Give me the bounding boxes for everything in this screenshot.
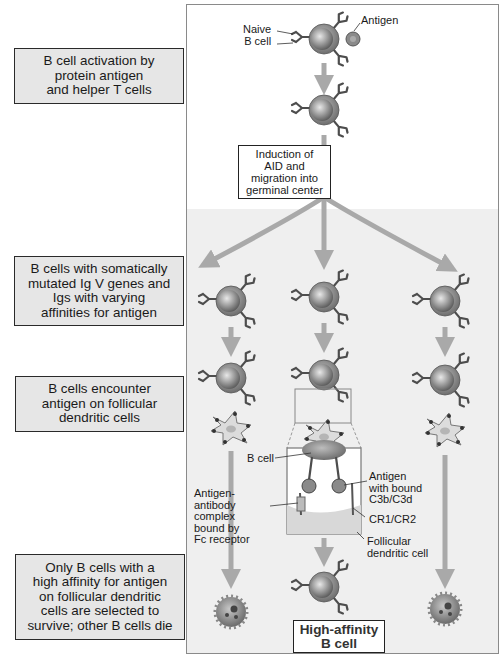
dying-b-cell-icon: [429, 593, 461, 625]
label-fdc-encounter: B cells encounter antigen on follicular …: [15, 376, 184, 432]
mutated-b-cell-icon: [199, 273, 256, 329]
fdc-icon: [211, 411, 251, 445]
antigen-c3b-label: Antigen with bound C3b/C3d: [369, 471, 422, 506]
high-affinity-b-cell-box: High-affinity B cell: [293, 620, 385, 653]
ag-ab-complex-label: Antigen- antibody complex bound by Fc re…: [194, 488, 250, 546]
naive-b-cell-label: Naive B cell: [243, 24, 271, 47]
fdc-label: Follicular dendritic cell: [367, 536, 428, 559]
cr1-cr2-label: CR1/CR2: [369, 514, 416, 526]
b-cell-icon: [413, 352, 470, 408]
b-cell-icon: [292, 347, 349, 403]
magnified-inset: [287, 440, 361, 534]
label-b-cell-activation: B cell activation by protein antigen and…: [14, 48, 184, 104]
diagram-graphics: [187, 5, 499, 654]
label-selection: Only B cells with a high affinity for an…: [15, 554, 185, 640]
mutated-b-cell-icon: [292, 269, 349, 325]
naive-b-cell-icon: [292, 11, 349, 67]
inset-b-cell-label: B cell: [247, 453, 274, 465]
diagram-panel: Naive B cell Antigen Induction of AID an…: [186, 4, 499, 654]
high-affinity-b-cell-icon: [292, 559, 349, 615]
induction-step-box: Induction of AID and migration into germ…: [238, 145, 331, 199]
activated-b-cell-icon: [292, 82, 349, 138]
mutated-b-cell-icon: [413, 273, 470, 329]
antigen-label: Antigen: [361, 15, 398, 27]
dying-b-cell-icon: [215, 596, 247, 628]
b-cell-icon: [199, 350, 256, 406]
fdc-icon: [425, 413, 465, 447]
antigen-icon: [346, 32, 360, 46]
label-somatic-mutation: B cells with somatically mutated Ig V ge…: [14, 256, 184, 326]
